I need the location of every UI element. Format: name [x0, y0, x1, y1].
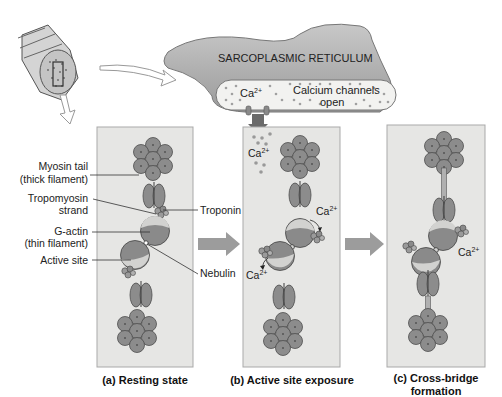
- caption-c-line2: formation: [411, 385, 462, 397]
- label-thin-filament: (thin filament): [24, 237, 88, 249]
- sr-ion-charge: 2+: [254, 87, 262, 94]
- sarcoplasmic-reticulum: SARCOPLASMIC RETICULUM Ca2+ Calcium chan…: [164, 24, 396, 115]
- caption-a: (a) Resting state: [102, 374, 188, 386]
- sr-channels-line2: open: [320, 96, 344, 108]
- zoom-arrow-down: [60, 95, 75, 124]
- caption-c-line1: (c) Cross-bridge: [394, 372, 479, 384]
- diagram: SARCOPLASMIC RETICULUM Ca2+ Calcium chan…: [0, 0, 502, 397]
- label-active-site: Active site: [40, 254, 88, 266]
- sr-ion: Ca: [240, 87, 255, 99]
- sr-label: SARCOPLASMIC RETICULUM: [218, 52, 373, 64]
- muscle-fiber-icon: [18, 25, 78, 100]
- sr-channels-line1: Calcium channels: [293, 84, 380, 96]
- step-arrow-1: [198, 232, 240, 256]
- label-tropomyosin-strand: strand: [59, 204, 88, 216]
- label-troponin: Troponin: [200, 204, 241, 216]
- ca-label-b3: Ca: [246, 269, 260, 281]
- label-myosin-tail: Myosin tail: [38, 160, 88, 172]
- caption-b: (b) Active site exposure: [230, 374, 354, 386]
- label-g-actin: G-actin: [54, 225, 88, 237]
- ca-label-b1: Ca: [248, 147, 262, 159]
- ca-label-c: Ca: [458, 246, 472, 258]
- label-nebulin: Nebulin: [200, 267, 236, 279]
- ca-label-b2: Ca: [316, 205, 330, 217]
- zoom-arrow-right: [100, 65, 176, 86]
- step-arrow-2: [345, 232, 384, 256]
- label-tropomyosin: Tropomyosin: [28, 192, 88, 204]
- label-thick-filament: (thick filament): [20, 173, 88, 185]
